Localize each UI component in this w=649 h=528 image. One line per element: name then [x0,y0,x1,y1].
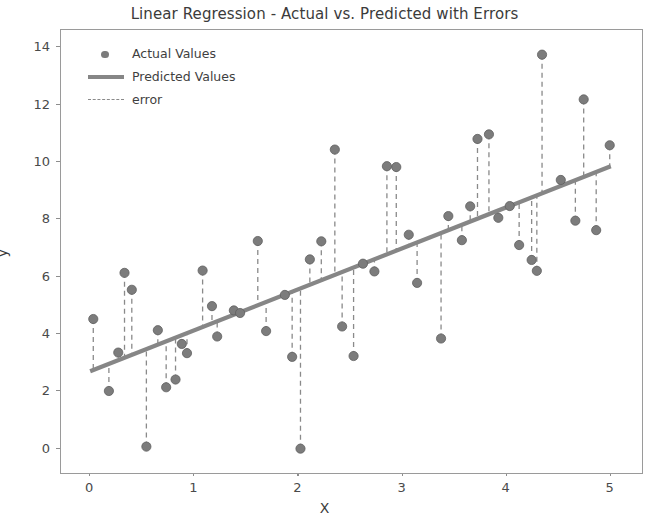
data-point [330,145,339,154]
y-tick-label: 2 [20,383,50,398]
y-tick-label: 6 [20,268,50,283]
x-tick-label: 1 [189,480,197,495]
data-point [198,266,207,275]
data-point [537,50,546,59]
data-point [288,352,297,361]
data-point [505,201,514,210]
data-point [382,162,391,171]
x-tick-label: 0 [85,480,93,495]
legend-item-predicted-values: Predicted Values [86,65,246,88]
chart-legend: Actual Values Predicted Values error [84,38,248,115]
y-tick-label: 12 [20,96,50,111]
data-point [142,442,151,451]
data-point [207,302,216,311]
y-tick-label: 4 [20,325,50,340]
y-axis-label: y [0,249,10,257]
legend-label-predicted-values: Predicted Values [132,69,236,84]
data-point [494,213,503,222]
x-tick-label: 4 [502,480,510,495]
data-point [338,322,347,331]
data-point [412,278,421,287]
legend-label-error: error [132,92,162,107]
data-point [104,386,113,395]
data-point [392,162,401,171]
x-tick-label: 5 [606,480,614,495]
data-point [358,259,367,268]
data-point [473,134,482,143]
chart-figure: Linear Regression - Actual vs. Predicted… [0,0,649,528]
chart-title: Linear Regression - Actual vs. Predicted… [0,5,649,23]
data-point [177,339,186,348]
data-point [444,211,453,220]
legend-label-actual-values: Actual Values [132,46,216,61]
data-point [532,266,541,275]
data-point [571,216,580,225]
data-point [592,226,601,235]
data-point [253,236,262,245]
data-point [171,375,180,384]
y-tick-label: 10 [20,153,50,168]
y-tick-label: 8 [20,211,50,226]
data-point [605,141,614,150]
predicted-values-line-icon [86,70,126,84]
data-point [280,290,289,299]
data-point [235,308,244,317]
data-point [436,334,445,343]
error-dashed-line-icon [86,93,126,107]
data-point [579,95,588,104]
y-tick-label: 14 [20,39,50,54]
data-point [349,351,358,360]
data-point [213,332,222,341]
x-tick-label: 2 [293,480,301,495]
x-axis-label: X [0,500,649,516]
data-point [457,236,466,245]
actual-values-marker-icon [86,47,126,61]
data-point [182,349,191,358]
data-point [317,237,326,246]
y-tick-label: 0 [20,440,50,455]
data-point [305,255,314,264]
data-point [262,326,271,335]
data-point [120,268,129,277]
data-point [114,348,123,357]
data-point [153,326,162,335]
data-point [296,444,305,453]
data-point [556,175,565,184]
legend-item-error: error [86,88,246,111]
data-point [466,202,475,211]
data-point [89,314,98,323]
data-point [484,130,493,139]
x-tick-label: 3 [397,480,405,495]
data-point [370,267,379,276]
plot-area: Actual Values Predicted Values error [60,29,643,474]
legend-item-actual-values: Actual Values [86,42,246,65]
data-point [527,255,536,264]
data-point [127,285,136,294]
data-point [404,230,413,239]
data-point [162,383,171,392]
data-point [515,240,524,249]
